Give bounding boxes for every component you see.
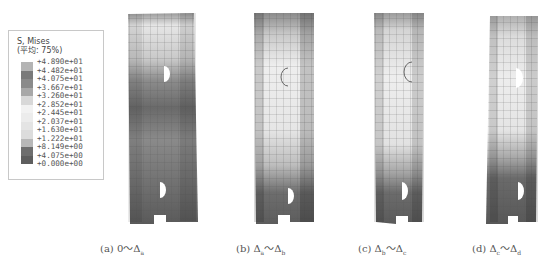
- legend-swatch: [21, 122, 33, 131]
- legend-swatch: [21, 147, 33, 156]
- caption-d: (d) Δc～Δd: [472, 240, 521, 256]
- legend-swatch: [21, 79, 33, 88]
- legend-swatch: [21, 88, 33, 97]
- column-model-b: [248, 10, 324, 225]
- legend-title: S, Mises: [17, 37, 50, 46]
- column-model-c: [368, 10, 438, 225]
- legend-value: +0.000e+00: [37, 160, 83, 169]
- legend-color-bar: [21, 62, 33, 164]
- legend-swatch: [21, 139, 33, 148]
- legend-swatch: [21, 96, 33, 105]
- legend-swatch: [21, 62, 33, 71]
- legend-subtitle: (平均: 75%): [17, 46, 62, 55]
- legend-value-labels: +4.890e+01+4.482e+01+4.075e+01+3.667e+01…: [37, 58, 83, 169]
- column-model-d: [482, 14, 544, 226]
- fe-column-c-icon: [368, 10, 438, 225]
- caption-a: (a) 0～Δa: [100, 240, 144, 256]
- caption-b: (b) Δa～Δb: [236, 240, 285, 256]
- stress-legend: S, Mises (平均: 75%) +4.890e+01+4.482e+01+…: [8, 30, 104, 180]
- legend-swatch: [21, 105, 33, 114]
- legend-swatch: [21, 130, 33, 139]
- column-model-a: [122, 10, 202, 225]
- fe-column-b-icon: [248, 10, 324, 225]
- legend-swatch: [21, 156, 33, 165]
- caption-c: (c) Δb～Δc: [358, 240, 406, 256]
- legend-swatch: [21, 113, 33, 122]
- fe-column-a-icon: [122, 10, 202, 225]
- fe-column-d-icon: [482, 14, 544, 226]
- legend-swatch: [21, 71, 33, 80]
